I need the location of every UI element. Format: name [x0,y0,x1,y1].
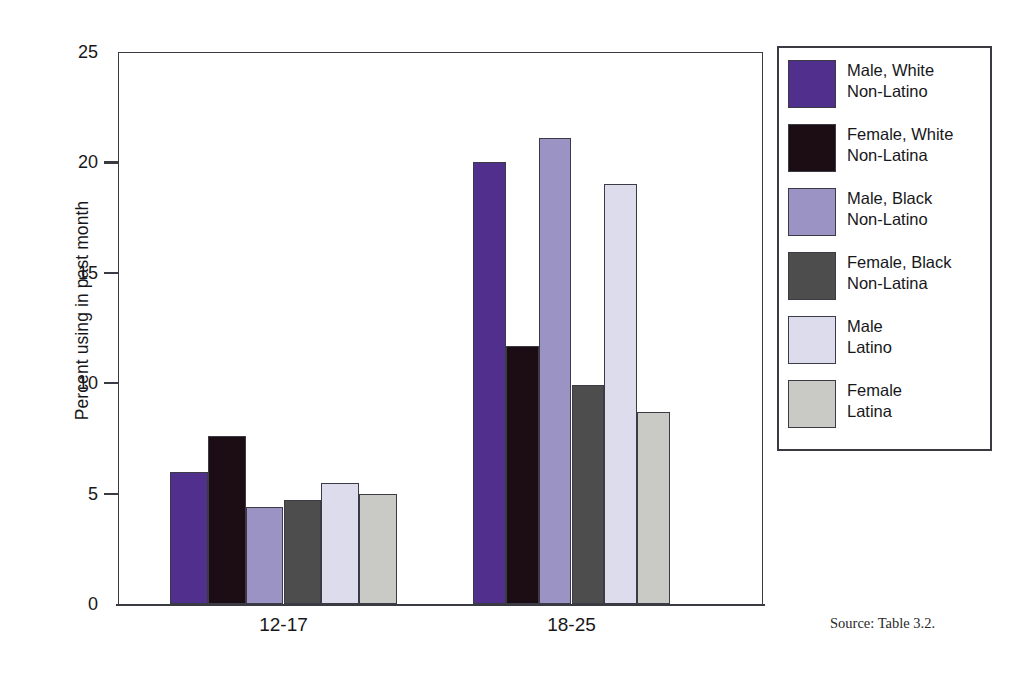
bar [246,507,284,604]
legend-swatch [788,252,836,300]
figure-bar-chart: Percent using in past month 0510152025 1… [0,0,1029,677]
y-tick-label: 25 [38,42,98,63]
source-note: Source: Table 3.2. [830,615,935,632]
legend-item[interactable]: Female Latina [779,378,990,442]
legend-item[interactable]: Male Latino [779,314,990,378]
bar [506,346,539,604]
legend-item[interactable]: Male, White Non-Latino [779,58,990,122]
y-tick-label: 5 [38,483,98,504]
bar [321,483,359,604]
x-category-label: 18-25 [547,614,596,636]
y-tick-label: 10 [38,373,98,394]
y-tick-label: 0 [38,594,98,615]
legend-item-label: Male Latino [847,314,892,358]
legend-item[interactable]: Female, White Non-Latina [779,122,990,186]
legend: Male, White Non-LatinoFemale, White Non-… [777,46,992,451]
bar [170,472,208,604]
legend-item-label: Female, Black Non-Latina [847,250,952,294]
bar [539,138,572,604]
y-tick-label: 20 [38,152,98,173]
bar [284,500,322,604]
legend-item-label: Male, White Non-Latino [847,58,934,102]
y-axis-title: Percent using in past month [72,151,93,471]
bar [604,184,637,604]
legend-item[interactable]: Male, Black Non-Latino [779,186,990,250]
x-category-label: 12-17 [259,614,308,636]
y-tick-label: 15 [38,262,98,283]
bar [208,436,246,604]
legend-swatch [788,60,836,108]
legend-swatch [788,316,836,364]
bar [359,494,397,604]
legend-swatch [788,380,836,428]
legend-swatch [788,188,836,236]
legend-item[interactable]: Female, Black Non-Latina [779,250,990,314]
legend-item-label: Female Latina [847,378,902,422]
bar [473,162,506,604]
bar [637,412,670,604]
legend-swatch [788,124,836,172]
bar [572,385,605,604]
legend-item-label: Male, Black Non-Latino [847,186,932,230]
legend-item-label: Female, White Non-Latina [847,122,953,166]
x-axis-line [116,604,765,606]
